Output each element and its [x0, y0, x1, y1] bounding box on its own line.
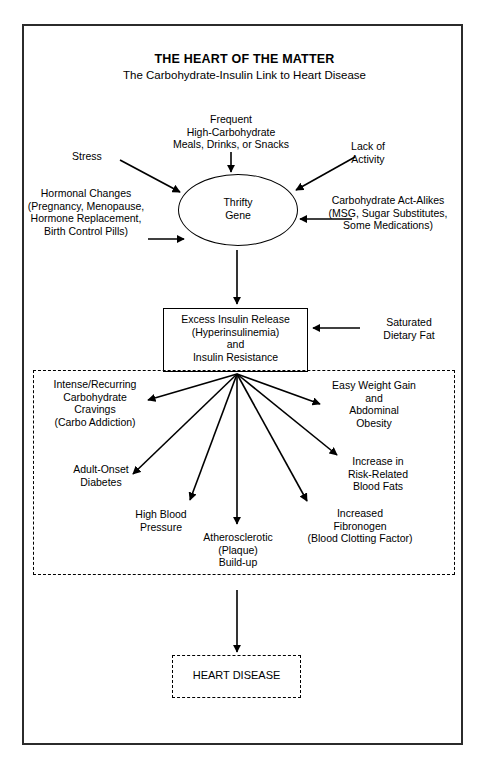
trigger-label-stress: Stress — [48, 150, 126, 163]
excess-insulin-label: Excess Insulin Release (Hyperinsulinemia… — [163, 313, 308, 363]
trigger-label-frequent-high-carbohydrate: Frequent High-Carbohydrate Meals, Drinks… — [141, 113, 321, 151]
thrifty-gene-label: Thrifty Gene — [178, 196, 298, 221]
outcome-label-high-blood-pressure: High Blood Pressure — [117, 508, 205, 533]
trigger-label-hormonal-changes: Hormonal Changes (Pregnancy, Menopause, … — [22, 187, 150, 237]
outcome-label-atherosclerotic-build-up: Atherosclerotic (Plaque) Build-up — [186, 531, 290, 569]
page-subtitle: The Carbohydrate-Insulin Link to Heart D… — [0, 69, 489, 81]
page-title: THE HEART OF THE MATTER — [0, 52, 489, 66]
outcome-label-risk-related-blood-fats: Increase in Risk-Related Blood Fats — [326, 455, 430, 493]
outcome-label-increased-fibronogen: Increased Fibronogen (Blood Clotting Fac… — [290, 507, 430, 545]
diagram-canvas: THE HEART OF THE MATTER The Carbohydrate… — [0, 0, 489, 772]
heart-disease-label: HEART DISEASE — [172, 669, 301, 681]
trigger-label-lack-of-activity: Lack of Activity — [330, 140, 406, 165]
outcome-label-carbohydrate-cravings: Intense/Recurring Carbohydrate Cravings … — [40, 378, 150, 428]
outcome-label-adult-onset-diabetes: Adult-Onset Diabetes — [57, 463, 145, 488]
outcome-label-easy-weight-gain: Easy Weight Gain and Abdominal Obesity — [316, 379, 432, 429]
cofactor-label-saturated-dietary-fat: Saturated Dietary Fat — [364, 316, 454, 341]
trigger-label-carbohydrate-act-alikes: Carbohydrate Act-Alikes (MSG, Sugar Subs… — [318, 194, 458, 232]
